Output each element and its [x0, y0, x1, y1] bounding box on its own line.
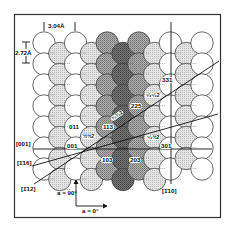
plane-225-label: 225: [130, 103, 142, 109]
plane-011-label: 011: [68, 124, 80, 130]
atom-white: [191, 95, 213, 117]
plane-301-label: 301: [160, 143, 172, 149]
atom-white: [191, 158, 213, 180]
plane-203-label: 203: [129, 157, 141, 163]
plane-331-label: 331: [161, 77, 173, 83]
lattice-diagram: 3.04Å 2.72Å [001] [1̄16] [1̄12] [1̄10] 0…: [0, 0, 234, 231]
plane-001-label: 001: [66, 143, 78, 149]
plane-half-half-2-label: ½½2: [82, 134, 95, 139]
atom-white: [191, 116, 213, 138]
horizontal-spacing-label: 3.04Å: [48, 23, 65, 29]
angle-90-label: a = 90°: [57, 190, 77, 196]
direction-112-label: [1̄12]: [21, 186, 35, 192]
plane-113-label: 113: [102, 124, 114, 130]
direction-001-label: [001]: [16, 141, 30, 147]
atom-white: [191, 32, 213, 54]
atom-white: [191, 137, 213, 159]
plane-103-label: 103: [101, 157, 113, 163]
plane-5half-half-2-label: ⁵⁄₂½2: [146, 135, 160, 140]
plane-5half-5half-2-label: ⁵⁄₂⁵⁄₂2: [145, 93, 161, 98]
direction-116-label: [1̄16]: [17, 160, 31, 166]
direction-110-label: [1̄10]: [162, 188, 176, 194]
angle-0-label: a = 0°: [82, 208, 98, 214]
vertical-spacing-label: 2.72Å: [15, 50, 32, 56]
